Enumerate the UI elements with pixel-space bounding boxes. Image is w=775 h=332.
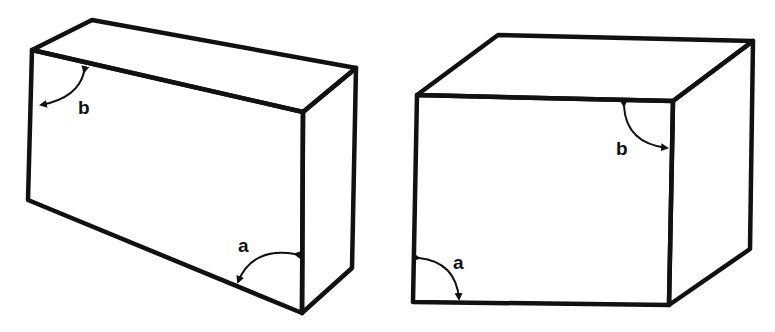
right-angle-b-label: b: [616, 138, 628, 159]
diagram-canvas: b a b a: [0, 0, 775, 332]
left-box-front-face: [28, 50, 303, 313]
right-box: b a: [413, 35, 753, 305]
right-box-side-face: [669, 41, 753, 305]
right-box-top-face: [417, 35, 753, 101]
left-box-side-face: [302, 68, 356, 313]
right-angle-b-arc-icon: [624, 106, 667, 148]
right-box-front-face: [413, 95, 673, 305]
left-box: b a: [28, 20, 356, 313]
left-angle-b-label: b: [78, 97, 90, 118]
left-angle-a-label: a: [238, 235, 249, 256]
right-angle-a-label: a: [453, 252, 464, 273]
left-angle-a-arc-icon: [238, 253, 295, 282]
